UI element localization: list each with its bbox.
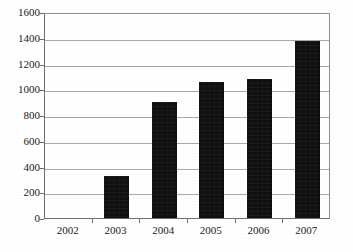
y-axis-tick-mark — [39, 65, 44, 66]
y-axis-tick-mark — [39, 13, 44, 14]
y-axis-tick-label: 1600 — [4, 7, 40, 18]
bar-texture — [152, 102, 177, 218]
bar-series — [45, 14, 329, 218]
x-axis-tick-label: 2003 — [92, 224, 140, 236]
y-axis-tick-mark — [39, 90, 44, 91]
x-axis-tick-label: 2004 — [139, 224, 187, 236]
bar — [295, 41, 320, 218]
y-axis-tick-label: 0 — [4, 213, 40, 224]
y-axis-tick-label: 400 — [4, 162, 40, 173]
bar-texture — [199, 82, 224, 218]
x-axis-tick-label: 2005 — [187, 224, 235, 236]
bar-chart-figure: 02004006008001000120014001600 2002200320… — [0, 0, 353, 252]
x-axis-tick-mark — [92, 219, 93, 223]
y-axis-tick-mark — [39, 39, 44, 40]
y-axis: 02004006008001000120014001600 — [0, 0, 40, 252]
x-axis-tick-mark — [187, 219, 188, 223]
bar-texture — [295, 41, 320, 218]
bar — [247, 79, 272, 218]
bar — [152, 102, 177, 218]
bar — [199, 82, 224, 218]
x-axis-tick-label: 2007 — [282, 224, 330, 236]
y-axis-tick-label: 1400 — [4, 33, 40, 44]
y-axis-tick-label: 800 — [4, 110, 40, 121]
bar-texture — [247, 79, 272, 218]
plot-area — [44, 13, 330, 219]
y-axis-tick-label: 1000 — [4, 84, 40, 95]
x-axis-tick-mark — [282, 219, 283, 223]
x-axis: 200220032004200520062007 — [44, 224, 330, 244]
y-axis-tick-mark — [39, 168, 44, 169]
x-axis-tick-mark — [235, 219, 236, 223]
y-axis-tick-mark — [39, 116, 44, 117]
y-axis-tick-label: 1200 — [4, 59, 40, 70]
y-axis-tick-label: 600 — [4, 136, 40, 147]
y-axis-tick-mark — [39, 142, 44, 143]
y-axis-tick-label: 200 — [4, 187, 40, 198]
x-axis-tick-label: 2006 — [235, 224, 283, 236]
y-axis-tick-mark — [39, 219, 44, 220]
x-axis-tick-mark — [139, 219, 140, 223]
x-axis-tick-label: 2002 — [44, 224, 92, 236]
bar-texture — [104, 176, 129, 218]
y-axis-tick-mark — [39, 193, 44, 194]
bar — [104, 176, 129, 218]
